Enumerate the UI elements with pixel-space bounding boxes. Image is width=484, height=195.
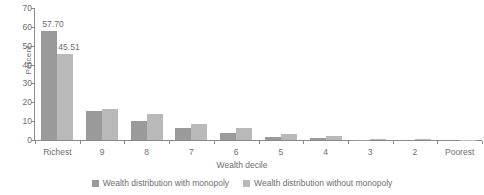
bar-group	[265, 8, 297, 140]
bar	[265, 137, 281, 140]
bar	[86, 111, 102, 140]
x-axis-tick-mark	[393, 141, 394, 144]
bar	[191, 124, 207, 140]
chart-legend: Wealth distribution with monopolyWealth …	[0, 179, 484, 188]
legend-item: Wealth distribution with monopoly	[92, 179, 229, 188]
legend-swatch-icon	[243, 180, 250, 187]
bar-group	[310, 8, 342, 140]
x-axis-tick-mark	[437, 141, 438, 144]
plot-area	[35, 8, 482, 140]
x-axis-title: Wealth decile	[0, 160, 484, 170]
bar-group	[220, 8, 252, 140]
x-axis-tick-label: 2	[393, 147, 438, 157]
bar	[326, 136, 342, 140]
bar-group	[399, 8, 431, 140]
wealth-distribution-bar-chart: Percent 010203040506070 Richest98765432P…	[0, 0, 484, 195]
bar	[236, 128, 252, 140]
bar	[370, 139, 386, 140]
x-axis-tick-label: Poorest	[437, 147, 482, 157]
bar	[147, 114, 163, 140]
legend-label: Wealth distribution with monopoly	[103, 179, 229, 188]
x-axis-tick-mark	[482, 141, 483, 144]
x-axis-tick-label: 9	[80, 147, 125, 157]
legend-label: Wealth distribution without monopoly	[254, 179, 392, 188]
bar	[131, 121, 147, 140]
bar-group	[444, 8, 476, 140]
bar	[102, 109, 118, 140]
bar	[41, 31, 57, 140]
bar	[281, 134, 297, 140]
x-axis-tick-mark	[169, 141, 170, 144]
x-axis-tick-mark	[214, 141, 215, 144]
bar	[310, 138, 326, 140]
x-axis-tick-mark	[80, 141, 81, 144]
bar-group	[86, 8, 118, 140]
x-axis-tick-mark	[124, 141, 125, 144]
legend-item: Wealth distribution without monopoly	[243, 179, 392, 188]
x-axis-tick-mark	[35, 141, 36, 144]
bar	[220, 133, 236, 140]
legend-swatch-icon	[92, 180, 99, 187]
x-axis-tick-label: 3	[348, 147, 393, 157]
x-axis-tick-mark	[303, 141, 304, 144]
bar-value-label: 45.51	[58, 43, 79, 52]
x-axis-tick-label: 4	[303, 147, 348, 157]
bar	[57, 54, 73, 140]
x-axis-tick-label: 7	[169, 147, 214, 157]
y-axis-tick-labels: 010203040506070	[0, 0, 36, 146]
bar-group	[175, 8, 207, 140]
x-axis-tick-label: Richest	[35, 147, 80, 157]
bar	[175, 128, 191, 140]
bar-group	[131, 8, 163, 140]
x-axis-tick-label: 5	[259, 147, 304, 157]
x-axis-tick-mark	[348, 141, 349, 144]
bar	[415, 139, 431, 141]
x-axis-tick-label: 8	[124, 147, 169, 157]
x-axis-tick-label: 6	[214, 147, 259, 157]
bar-value-label: 57.70	[42, 20, 63, 29]
x-axis-tick-mark	[259, 141, 260, 144]
bar-group	[354, 8, 386, 140]
